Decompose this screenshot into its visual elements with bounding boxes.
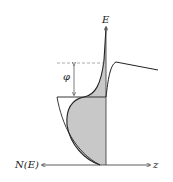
occupied-states-fill — [67, 97, 106, 165]
distance-axis-label: z — [152, 159, 159, 170]
energy-axis-label: E — [101, 14, 110, 25]
thermal-tail-fill — [84, 28, 106, 97]
work-function-label: φ — [63, 71, 70, 82]
diagram-canvas: φ E N(E) z — [0, 0, 173, 182]
surface-potential-barrier — [106, 62, 158, 97]
dos-axis-label: N(E) — [14, 159, 39, 170]
